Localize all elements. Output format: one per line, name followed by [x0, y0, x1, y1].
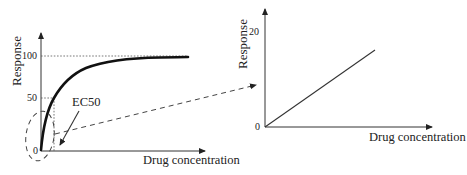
zoom-connector-arrow	[55, 85, 256, 134]
right-y-label: Response	[235, 19, 250, 69]
left-y-label: Response	[9, 36, 24, 86]
linear-response-line	[265, 50, 375, 127]
right-x-label: Drug concentration	[369, 130, 467, 144]
left-plot: 100 50 0 Response Drug concentration EC5…	[9, 33, 241, 167]
left-tick-0: 0	[33, 145, 38, 156]
dose-response-diagram: 100 50 0 Response Drug concentration EC5…	[0, 0, 467, 175]
ec50-label: EC50	[72, 95, 100, 109]
right-plot: 20 0 Response Drug concentration	[235, 9, 467, 144]
left-tick-100: 100	[22, 50, 37, 61]
ec50-arrow	[60, 111, 79, 145]
right-tick-0: 0	[255, 121, 260, 132]
left-x-label: Drug concentration	[143, 153, 241, 167]
right-tick-20: 20	[249, 26, 259, 37]
low-concentration-highlight	[23, 109, 58, 162]
dose-response-curve	[41, 57, 188, 150]
left-tick-50: 50	[27, 92, 37, 103]
